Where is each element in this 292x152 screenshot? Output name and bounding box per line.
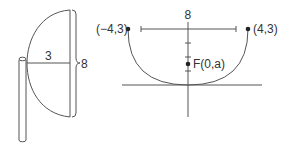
pole xyxy=(19,57,26,142)
left-point-label: (−4,3) xyxy=(96,22,128,36)
height-brace xyxy=(72,10,80,117)
diagram-canvas: 3 8 8 (−4,3) (4,3) F(0,a) xyxy=(0,0,292,152)
right-point-label: (4,3) xyxy=(253,22,278,36)
width-label: 8 xyxy=(185,8,192,22)
dish-height-label: 8 xyxy=(81,57,88,71)
dish-figure xyxy=(19,10,80,142)
right-point-dot xyxy=(246,27,251,32)
radius-label: 3 xyxy=(45,49,52,63)
focus-label: F(0,a) xyxy=(193,57,225,71)
focus-point-dot xyxy=(186,62,191,67)
cross-section-figure xyxy=(122,22,262,117)
diagram-stage: 3 8 8 (−4,3) (4,3) F(0,a) xyxy=(0,0,292,152)
